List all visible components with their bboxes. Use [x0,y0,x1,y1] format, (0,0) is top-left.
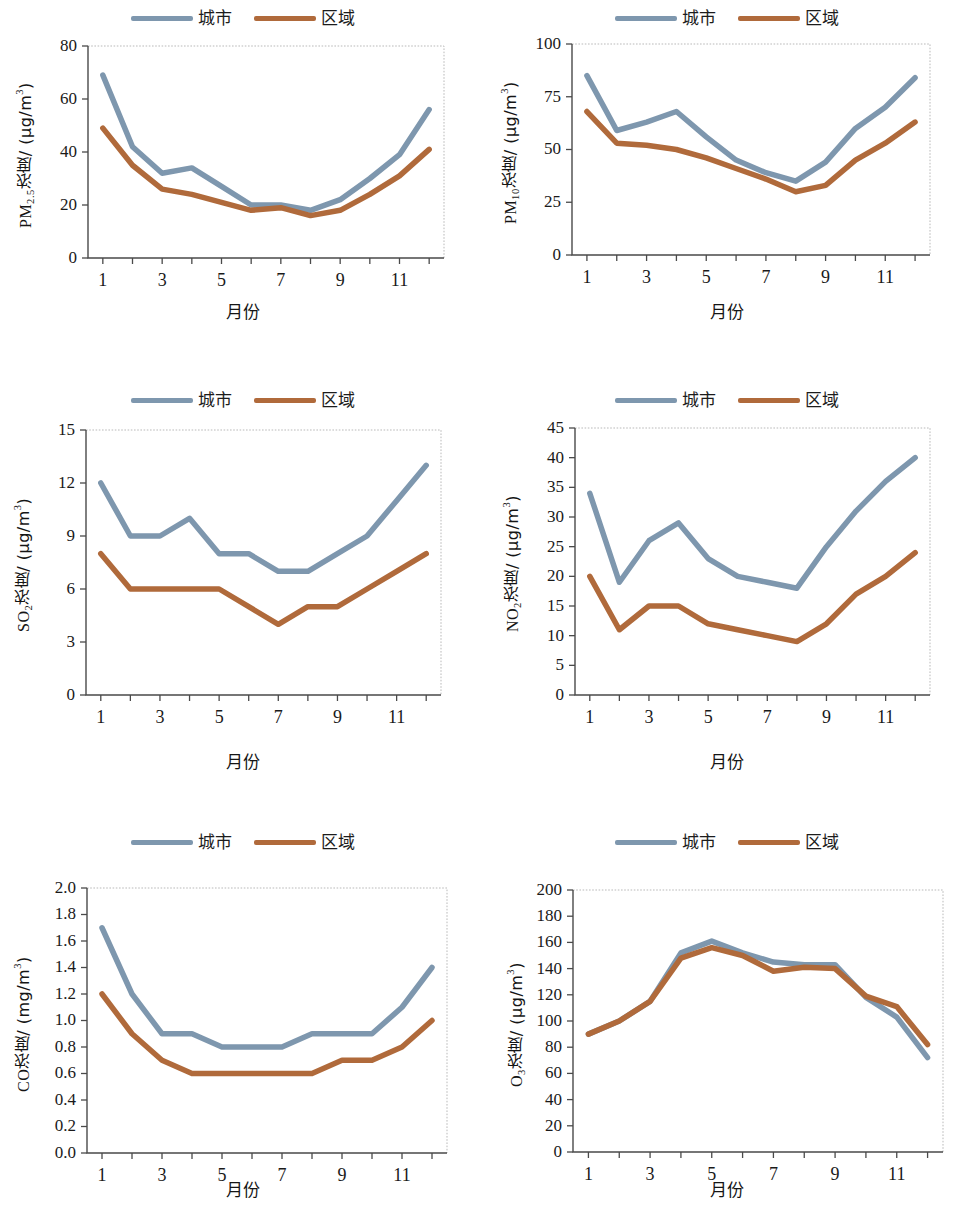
x-tick-label: 5 [217,270,226,290]
legend-color-swatch [131,16,193,21]
x-tick-label: 3 [642,267,651,287]
x-tick-label: 1 [584,1164,593,1184]
series-line-city [101,465,426,571]
legend-color-swatch [738,16,800,21]
x-tick-label: 5 [215,707,224,727]
y-tick-label: 60 [545,1063,562,1082]
y-tick-label: 0.8 [55,1037,76,1056]
x-tick-label: 5 [702,267,711,287]
legend-entry-region[interactable]: 区域 [254,392,355,409]
x-tick-label: 3 [158,270,167,290]
legend-entry-region[interactable]: 区域 [254,834,355,851]
x-tick-label: 9 [822,707,831,727]
y-tick-label: 100 [536,34,562,53]
y-tick-label: 0.6 [55,1063,76,1082]
x-tick-label: 11 [877,267,894,287]
y-tick-label: 60 [60,89,77,108]
legend-color-swatch [254,840,316,845]
y-tick-label: 0 [554,1142,563,1161]
legend-entry-city[interactable]: 城市 [131,10,232,27]
y-tick-label: 40 [545,1090,562,1109]
y-tick-label: 0 [67,685,76,704]
y-axis-title: SO2浓度/ (μg/m3) [12,440,36,690]
y-tick-label: 80 [60,36,77,55]
y-tick-label: 15 [58,420,75,439]
y-tick-label: 1.4 [55,957,77,976]
x-tick-label: 11 [888,1164,905,1184]
y-tick-label: 30 [547,507,564,526]
y-tick-label: 10 [547,626,564,645]
y-tick-label: 20 [547,566,564,585]
series-line-city [102,928,432,1047]
y-tick-label: 1.2 [55,984,76,1003]
legend-color-swatch [738,398,800,403]
x-tick-label: 1 [98,1165,107,1185]
legend-entry-region[interactable]: 区域 [738,10,839,27]
plot-area-o3: 0204060801001201401601802001357911 [525,882,955,1198]
legend-label: 城市 [682,834,716,851]
legend-entry-city[interactable]: 城市 [615,10,716,27]
chart-legend: 城市区域 [0,388,485,412]
legend-entry-region[interactable]: 区域 [738,392,839,409]
x-tick-label: 7 [278,1165,287,1185]
y-tick-label: 40 [60,142,77,161]
x-tick-label: 3 [646,1164,655,1184]
chart-legend: 城市区域 [0,6,485,30]
legend-label: 区域 [805,834,839,851]
legend-entry-city[interactable]: 城市 [615,392,716,409]
legend-color-swatch [254,398,316,403]
x-tick-label: 7 [276,270,285,290]
chart-panel-pm25: 城市区域PM2.5浓度/ (μg/m3)月份0204060801357911 [0,0,485,370]
x-tick-label: 3 [158,1165,167,1185]
legend-label: 区域 [321,834,355,851]
x-tick-label: 9 [821,267,830,287]
legend-entry-region[interactable]: 区域 [738,834,839,851]
legend-color-swatch [254,16,316,21]
chart-legend: 城市区域 [485,830,969,854]
y-tick-label: 9 [67,526,76,545]
legend-color-swatch [738,840,800,845]
legend-entry-city[interactable]: 城市 [615,834,716,851]
x-tick-label: 1 [98,270,107,290]
legend-entry-city[interactable]: 城市 [131,392,232,409]
y-tick-label: 0.4 [55,1090,77,1109]
chart-legend: 城市区域 [485,388,969,412]
x-tick-label: 5 [707,1164,716,1184]
y-tick-label: 200 [537,880,563,899]
y-tick-label: 1.8 [55,904,76,923]
y-tick-label: 40 [547,448,564,467]
series-line-region [590,553,915,642]
chart-panel-o3: 城市区域O3浓度/ (μg/m3)月份020406080100120140160… [485,820,969,1213]
y-tick-label: 120 [537,985,563,1004]
series-line-region [588,948,927,1045]
y-tick-label: 0 [556,685,565,704]
legend-label: 区域 [321,10,355,27]
y-tick-label: 0.0 [55,1143,76,1162]
x-axis-title: 月份 [485,748,969,773]
plot-area-pm25: 0204060801357911 [40,38,456,304]
legend-entry-city[interactable]: 城市 [131,834,232,851]
x-tick-label: 9 [338,1165,347,1185]
y-axis-title: NO2浓度/ (μg/m3) [501,436,525,691]
chart-legend: 城市区域 [485,6,969,30]
x-tick-label: 5 [218,1165,227,1185]
x-tick-label: 11 [388,707,405,727]
y-tick-label: 35 [547,477,564,496]
x-axis-title: 月份 [0,748,485,773]
y-tick-label: 0 [69,248,78,267]
legend-color-swatch [615,840,677,845]
y-tick-label: 25 [544,192,561,211]
y-tick-label: 2.0 [55,878,76,897]
series-line-city [590,458,915,589]
legend-entry-region[interactable]: 区域 [254,10,355,27]
y-axis-title: PM2.5浓度/ (μg/m3) [14,60,38,250]
y-tick-label: 75 [544,87,561,106]
legend-label: 城市 [198,392,232,409]
y-tick-label: 12 [58,473,75,492]
y-axis-title: PM10浓度/ (μg/m3) [499,55,523,250]
chart-panel-so2: 城市区域SO2浓度/ (μg/m3)月份036912151357911 [0,370,485,820]
x-tick-label: 7 [763,707,772,727]
y-tick-label: 15 [547,596,564,615]
x-tick-label: 5 [704,707,713,727]
legend-label: 城市 [682,10,716,27]
